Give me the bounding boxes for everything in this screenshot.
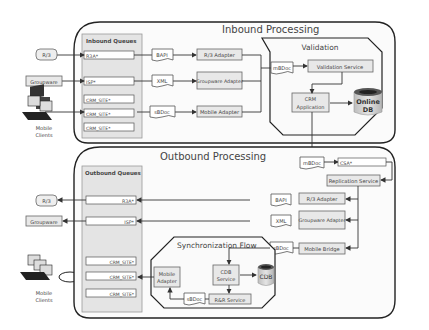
- laptop-stack-icon: [20, 255, 52, 280]
- outbound-queues-title: Outbound Queues: [85, 170, 142, 176]
- mobile-adapter-label: Mobile Adapter: [200, 109, 240, 116]
- groupware-adapter-label: Groupware Adapter: [196, 79, 243, 84]
- validation-service-label: Validation Service: [317, 64, 363, 70]
- queue-isp: ISP*: [86, 80, 96, 85]
- queue-r3a: R3A*: [86, 54, 99, 59]
- validation-region: Validation Validation Service CRM Applic…: [262, 38, 382, 135]
- mobile-clients-line1: Mobile: [36, 125, 52, 131]
- queue-csa: CSA*: [340, 161, 353, 166]
- mobile-bridge-label: Mobile Bridge: [304, 246, 340, 253]
- outbound-mbdoc: mBDoc: [303, 160, 321, 166]
- sync-sbdoc: sBDoc: [187, 296, 203, 302]
- doc-sbdoc: sBDoc: [154, 109, 170, 115]
- cdb-service-line2: Service: [217, 276, 235, 282]
- rr-service-label: R&R Service: [215, 297, 246, 303]
- replication-service-label: Replication Service: [329, 178, 379, 185]
- sync-mobile-adapter-line1: Mobile: [159, 271, 175, 277]
- out-doc-sbdoc: sBDoc: [273, 245, 289, 251]
- r3-adapter-label: R/3 Adapter: [204, 52, 236, 59]
- laptop-stack-icon: [22, 84, 52, 120]
- outbound-title: Outbound Processing: [160, 151, 266, 162]
- out-queue-isp: ISP*: [124, 220, 134, 225]
- online-db-line1: Online: [356, 98, 380, 106]
- crm-application-line1: CRM: [305, 96, 316, 102]
- inbound-mbdoc: mBDoc: [273, 65, 291, 71]
- crm-application-line2: Application: [297, 104, 325, 111]
- online-db-line2: DB: [363, 106, 373, 114]
- doc-bapi: BAPI: [156, 52, 167, 58]
- sync-mobile-adapter-line2: Adapter: [157, 278, 178, 285]
- sync-title: Synchronization Flow: [177, 241, 257, 250]
- doc-xml: XML: [157, 78, 168, 84]
- inbound-queues-panel: Inbound Queues R3A* ISP* CRM_SITE* CRM_S…: [82, 34, 142, 138]
- r3-label-out: R/3: [42, 198, 51, 204]
- external-systems: R/3 Groupware Mobile Clients R/3 Groupwa…: [20, 49, 81, 303]
- out-doc-bapi: BAPI: [275, 197, 286, 203]
- inbound-queues-title: Inbound Queues: [86, 38, 137, 44]
- out-doc-xml: XML: [276, 218, 287, 224]
- inbound-title: Inbound Processing: [222, 24, 319, 35]
- mobile-clients-line2: Clients: [35, 132, 52, 138]
- groupware-label-out: Groupware: [30, 219, 57, 226]
- out-groupware-adapter-label: Groupware Adapter: [299, 218, 346, 223]
- mobile-clients-out-line1: Mobile: [36, 290, 52, 296]
- cdb-service-line1: CDB: [221, 269, 232, 275]
- mobile-clients-out-line2: Clients: [35, 297, 52, 303]
- crm-middleware-diagram: Inbound Processing Validation Validation…: [0, 0, 429, 330]
- validation-title: Validation: [301, 43, 338, 52]
- cdb-label: CDB: [260, 273, 273, 280]
- r3-label-in: R/3: [42, 52, 51, 58]
- out-queue-r3a: R3A*: [122, 199, 135, 204]
- out-r3-adapter-label: R/3 Adapter: [307, 196, 339, 203]
